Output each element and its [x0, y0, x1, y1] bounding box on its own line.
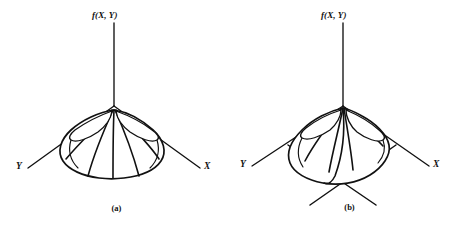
panel-b-x-axis-label: X: [433, 159, 439, 169]
panel-b-vertical-axis-label: f(X, Y): [321, 10, 347, 20]
panel-a-vertical-axis-label: f(X, Y): [92, 10, 118, 20]
figure-root: f(X, Y) Y X (a): [0, 0, 466, 231]
panel-a-plot: [0, 0, 233, 231]
panel-b-y-axis-label: Y: [240, 159, 246, 169]
panel-b-plot: [233, 0, 466, 231]
panel-b-caption: (b): [233, 202, 466, 212]
figure-panel-a: f(X, Y) Y X (a): [0, 0, 233, 231]
panel-a-y-axis-label: Y: [16, 161, 22, 171]
figure-panel-b: f(X, Y) Y X (b): [233, 0, 466, 231]
panel-a-x-axis-label: X: [204, 161, 210, 171]
panel-a-caption: (a): [0, 203, 233, 213]
